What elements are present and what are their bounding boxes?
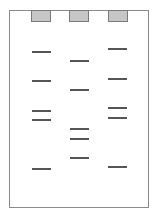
- lane-1-band-4: [32, 119, 51, 121]
- lane-1-band-5: [32, 168, 51, 170]
- lane-3-band-2: [108, 78, 127, 80]
- lane-2-band-4: [70, 138, 89, 140]
- lane-2-band-1: [70, 60, 89, 62]
- lane-1-band-2: [32, 80, 51, 82]
- lane-1-band-1: [32, 51, 51, 53]
- lane-2-band-2: [70, 89, 89, 91]
- gel-outline: [9, 10, 149, 208]
- lane-2-band-5: [70, 157, 89, 159]
- lane-1-well: [31, 10, 51, 22]
- lane-3-band-1: [108, 48, 127, 50]
- lane-3-band-3: [108, 107, 127, 109]
- lane-2-band-3: [70, 128, 89, 130]
- lane-3-well: [108, 10, 128, 22]
- lane-1-band-3: [32, 110, 51, 112]
- lane-3-band-5: [108, 166, 127, 168]
- lane-3-band-4: [108, 117, 127, 119]
- lane-2-well: [69, 10, 89, 22]
